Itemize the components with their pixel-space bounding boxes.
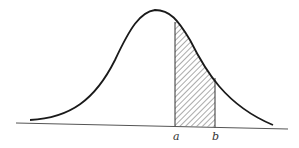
label-b: b (212, 130, 219, 143)
x-axis (16, 123, 288, 129)
normal-curve-diagram: a b (0, 0, 299, 148)
bell-curve (30, 10, 273, 125)
shaded-area (30, 10, 273, 128)
label-a: a (173, 130, 180, 143)
